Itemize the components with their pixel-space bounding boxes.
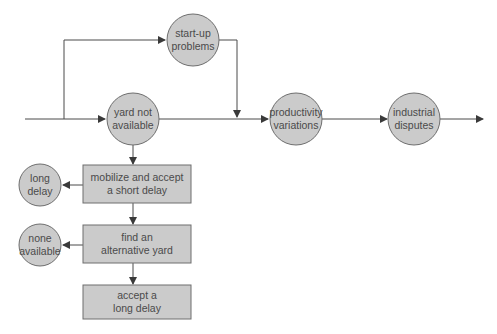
- box-label-line2: alternative yard: [101, 244, 173, 256]
- node-yard-not-available: yard not available: [107, 93, 159, 145]
- box-label-line2: a short delay: [107, 184, 168, 196]
- node-industrial-disputes: industrial disputes: [388, 93, 440, 145]
- box-accept-long-delay: accept a long delay: [83, 285, 191, 319]
- node-label-line2: variations: [274, 119, 319, 131]
- node-label-line1: none: [28, 232, 52, 244]
- node-label-line2: disputes: [394, 119, 433, 131]
- box-label-line1: find an: [121, 231, 153, 243]
- node-label-line1: yard not: [114, 106, 152, 118]
- box-label-line2: long delay: [113, 302, 162, 314]
- node-label-line2: available: [112, 119, 154, 131]
- box-label-line1: accept a: [117, 289, 157, 301]
- node-startup-problems: start-up problems: [167, 14, 219, 66]
- node-label-line2: available: [19, 245, 61, 257]
- node-productivity-variations: productivity variations: [269, 93, 323, 145]
- node-label-line2: delay: [27, 185, 53, 197]
- flow-diagram: start-up problems yard not available pro…: [0, 0, 497, 334]
- node-label-line1: long: [30, 172, 50, 184]
- node-long-delay: long delay: [19, 164, 61, 206]
- box-label-line1: mobilize and accept: [91, 171, 184, 183]
- node-label-line1: productivity: [269, 106, 323, 118]
- startup-to-main-line: [219, 40, 237, 117]
- node-label-line1: industrial: [393, 106, 435, 118]
- node-label-line2: problems: [171, 40, 214, 52]
- box-find-alternative-yard: find an alternative yard: [83, 225, 191, 263]
- node-none-available: none available: [19, 224, 61, 266]
- box-mobilize-short-delay: mobilize and accept a short delay: [83, 165, 191, 203]
- node-label-line1: start-up: [175, 27, 211, 39]
